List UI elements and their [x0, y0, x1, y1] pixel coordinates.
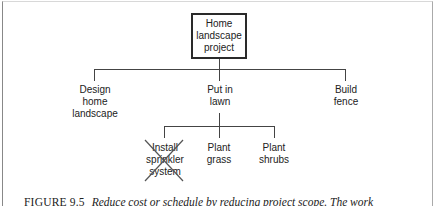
cross-out-icon [143, 138, 185, 183]
node-build-fence: Build fence [315, 84, 377, 108]
node-plant-shrubs-label: Plant shrubs [250, 142, 298, 166]
connector-lawn-down [219, 113, 220, 127]
root-node-box: Home landscape project [191, 13, 247, 59]
connector-level2-right [274, 126, 275, 138]
connector-level2-left [164, 126, 165, 138]
connector-level1-left [94, 69, 95, 81]
node-build-fence-label: Build fence [315, 84, 377, 108]
connector-level1-center [219, 69, 220, 81]
node-design-home-landscape: Design home landscape [64, 84, 126, 120]
node-plant-grass: Plant grass [197, 142, 241, 166]
figure-caption-label: FIGURE 9.5 [24, 196, 85, 206]
node-plant-grass-label: Plant grass [197, 142, 241, 166]
root-node-label: Home landscape project [196, 18, 242, 54]
node-plant-shrubs: Plant shrubs [250, 142, 298, 166]
figure-caption: FIGURE 9.5 Reduce cost or schedule by re… [24, 196, 373, 206]
connector-level1-right [345, 69, 346, 81]
connector-level2-center [219, 126, 220, 138]
figure-caption-text: Reduce cost or schedule by reducing proj… [92, 196, 373, 206]
node-put-in-lawn-label: Put in lawn [189, 84, 251, 108]
node-put-in-lawn: Put in lawn [189, 84, 251, 108]
node-design-home-landscape-label: Design home landscape [64, 84, 126, 120]
